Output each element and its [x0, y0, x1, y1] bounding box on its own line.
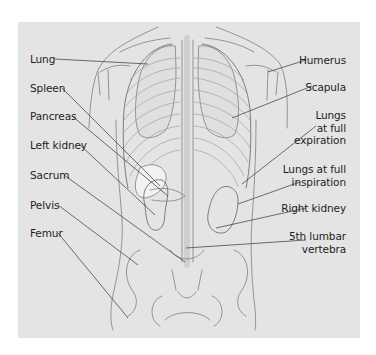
- label-humerus: Humerus: [299, 54, 346, 67]
- torso-right: [251, 120, 256, 330]
- pelvis-right: [234, 250, 248, 316]
- label-sacrum: Sacrum: [30, 169, 69, 182]
- label-lungs-inspiration: Lungs at full inspiration: [283, 163, 346, 188]
- label-lung: Lung: [30, 53, 55, 66]
- label-left-kidney: Left kidney: [30, 139, 87, 152]
- label-5th-lumbar-vertebra: 5th lumbar vertebra: [289, 230, 346, 255]
- label-right-kidney: Right kidney: [281, 202, 346, 215]
- label-lungs-expiration: Lungs at full expiration: [294, 109, 346, 147]
- right-kidney: [208, 186, 238, 233]
- torso-left: [111, 120, 122, 330]
- label-pelvis: Pelvis: [30, 199, 59, 212]
- label-pancreas: Pancreas: [30, 110, 76, 123]
- label-scapula: Scapula: [305, 81, 346, 94]
- label-femur: Femur: [30, 227, 63, 240]
- label-spleen: Spleen: [30, 82, 65, 95]
- pelvis-left: [126, 250, 140, 316]
